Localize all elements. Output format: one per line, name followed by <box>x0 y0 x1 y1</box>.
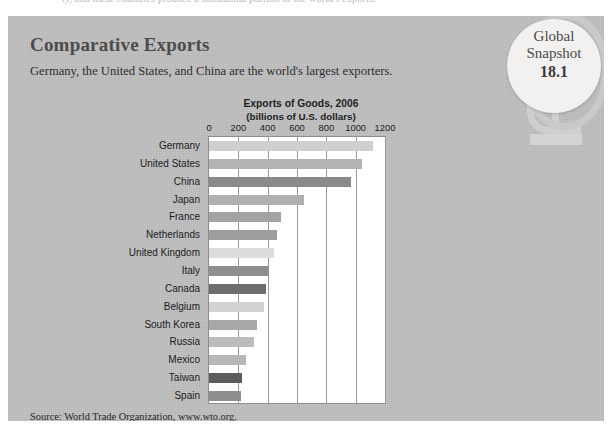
category-label: Spain <box>174 390 200 401</box>
chart-bar <box>209 373 242 383</box>
y-axis-category-labels: GermanyUnited StatesChinaJapanFranceNeth… <box>104 136 204 404</box>
badge-number: 18.1 <box>507 63 601 81</box>
gridline <box>356 137 357 403</box>
x-tick-label: 1200 <box>375 122 396 133</box>
chart-bar <box>209 230 277 240</box>
category-label: United States <box>140 157 200 168</box>
global-snapshot-panel: Comparative Exports Germany, the United … <box>8 16 604 421</box>
chart-bar <box>209 284 266 294</box>
category-label: Japan <box>173 193 200 204</box>
category-label: Netherlands <box>146 229 200 240</box>
category-label: France <box>169 211 200 222</box>
category-label: Belgium <box>164 300 200 311</box>
chart-plot-area <box>208 136 386 404</box>
chart-bar <box>209 212 281 222</box>
chart-bar <box>209 266 269 276</box>
chart-title-line: Exports of Goods, 2006 <box>208 97 394 111</box>
category-label: Italy <box>182 265 200 276</box>
source-suffix: . <box>234 411 237 421</box>
x-tick-label: 400 <box>260 122 276 133</box>
chart-bar <box>209 177 351 187</box>
chart-bar <box>209 391 241 401</box>
x-tick-label: 600 <box>289 122 305 133</box>
page-bleed-text: ty, and these countries produce a substa… <box>0 0 612 15</box>
category-label: United Kingdom <box>129 247 200 258</box>
globe-base-icon <box>530 134 582 145</box>
x-tick-label: 1000 <box>345 122 366 133</box>
chart-title: Exports of Goods, 2006 (billions of U.S.… <box>208 97 394 124</box>
panel-subtitle: Germany, the United States, and China ar… <box>30 64 393 79</box>
category-label: Taiwan <box>169 372 200 383</box>
source-link[interactable]: www.wto.org <box>178 411 234 421</box>
source-prefix: Source: World Trade Organization, <box>30 411 178 421</box>
page-title: Comparative Exports <box>30 34 210 56</box>
chart-bar <box>209 302 264 312</box>
category-label: Russia <box>169 336 200 347</box>
chart-bar <box>209 141 373 151</box>
badge-line-2: Snapshot <box>507 45 601 62</box>
plot-background <box>208 136 386 404</box>
category-label: China <box>174 175 200 186</box>
chart-bar <box>209 337 254 347</box>
globe-badge: Global Snapshot 18.1 <box>497 16 604 158</box>
source-note: Source: World Trade Organization, www.wt… <box>30 411 237 421</box>
chart-bar <box>209 355 246 365</box>
chart-bar <box>209 159 362 169</box>
category-label: Mexico <box>168 354 200 365</box>
category-label: Canada <box>165 282 200 293</box>
chart-bar <box>209 320 257 330</box>
chart-bar <box>209 248 274 258</box>
x-tick-label: 800 <box>319 122 335 133</box>
globe-badge-label: Global Snapshot 18.1 <box>507 28 601 81</box>
gridline <box>385 137 386 403</box>
category-label: South Korea <box>144 318 200 329</box>
chart-bar <box>209 195 304 205</box>
x-tick-label: 200 <box>231 122 247 133</box>
badge-line-1: Global <box>507 28 601 45</box>
x-tick-label: 0 <box>206 122 211 133</box>
category-label: Germany <box>159 139 200 150</box>
x-axis-ticks: 020040060080010001200 <box>208 122 386 135</box>
